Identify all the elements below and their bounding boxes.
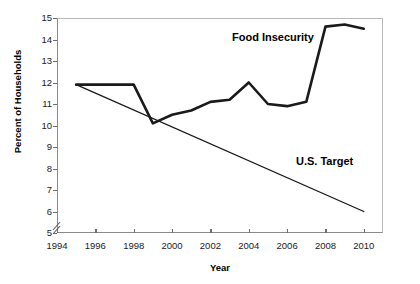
series-line-us-target xyxy=(76,85,364,212)
chart-container: Percent of Households Year 5678910111213… xyxy=(0,0,420,284)
annotation-us-target: U.S. Target xyxy=(296,155,353,167)
annotation-food-insecurity: Food Insecurity xyxy=(232,31,314,43)
chart-lines-overlay xyxy=(0,0,420,284)
axis-break-icon xyxy=(53,222,60,234)
series-line-food-insecurity xyxy=(76,24,364,123)
